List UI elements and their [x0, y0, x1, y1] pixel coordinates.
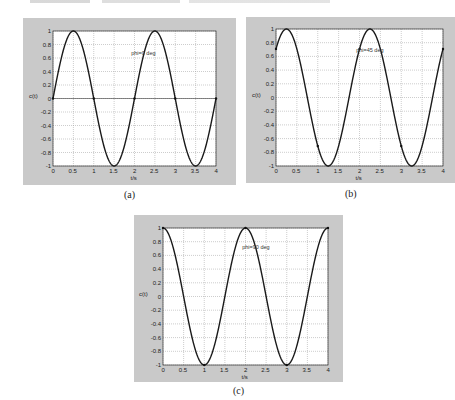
- x-tick-label: 3.5: [417, 168, 425, 174]
- x-tick-label: 3.5: [191, 168, 199, 174]
- x-tick-label: 0.5: [292, 168, 300, 174]
- cropped-top-text: [30, 0, 330, 3]
- x-tick-label: 2.5: [376, 168, 384, 174]
- y-tick-label: -0.8: [151, 348, 161, 354]
- y-tick-label: 0: [48, 96, 51, 102]
- y-tick-label: 0.4: [266, 67, 274, 73]
- phase-annotation: phi=0 deg: [131, 50, 155, 56]
- x-tick-label: 2.5: [261, 367, 269, 373]
- x-tick-label: 0: [161, 367, 164, 373]
- y-axis-label: c(t): [139, 291, 148, 297]
- y-tick-label: 0.6: [266, 53, 274, 59]
- phase-annotation: phi=90 deg: [242, 244, 269, 250]
- y-tick-label: 0.2: [266, 81, 274, 87]
- y-tick-label: -0.8: [41, 150, 51, 156]
- y-tick-label: -0.4: [151, 321, 161, 327]
- x-tick-label: 2: [244, 367, 247, 373]
- y-tick-label: -0.6: [41, 136, 51, 142]
- x-tick-label: 2: [358, 168, 361, 174]
- x-tick-label: 3: [285, 367, 288, 373]
- y-tick-label: 0.8: [266, 40, 274, 46]
- x-tick-label: 3: [400, 168, 403, 174]
- x-tick-label: 1: [203, 367, 206, 373]
- y-tick-label: -0.2: [264, 108, 274, 114]
- y-tick-label: 0.2: [153, 280, 161, 286]
- y-tick-label: 0.8: [153, 239, 161, 245]
- caption-c: (c): [233, 385, 244, 396]
- y-tick-label: -0.6: [151, 335, 161, 341]
- x-tick-label: 3.5: [303, 367, 311, 373]
- x-tick-label: 1.5: [109, 168, 117, 174]
- x-tick-label: 1: [92, 168, 95, 174]
- y-tick-label: 0.2: [43, 82, 51, 88]
- caption-a: (a): [124, 189, 135, 200]
- y-tick-label: 1: [48, 28, 51, 34]
- caption-b: (b): [345, 188, 357, 199]
- x-axis-label: t/s: [131, 175, 137, 181]
- x-axis-label: t/s: [242, 374, 248, 380]
- x-tick-label: 4: [214, 168, 217, 174]
- x-tick-label: 2.5: [150, 168, 158, 174]
- y-tick-label: -1: [156, 362, 161, 368]
- y-tick-label: 1: [158, 225, 161, 231]
- x-tick-label: 1.5: [220, 367, 228, 373]
- x-tick-label: 4: [326, 367, 329, 373]
- x-tick-label: 3: [174, 168, 177, 174]
- x-tick-label: 0: [274, 168, 277, 174]
- x-tick-label: 1: [316, 168, 319, 174]
- x-tick-label: 1.5: [334, 168, 342, 174]
- y-tick-label: -0.8: [264, 149, 274, 155]
- y-tick-label: -1: [46, 163, 51, 169]
- y-tick-label: 0: [158, 294, 161, 300]
- y-axis-label: c(t): [252, 92, 261, 98]
- y-tick-label: -0.4: [41, 123, 51, 129]
- y-tick-label: 1: [271, 26, 274, 32]
- y-tick-label: 0.6: [153, 252, 161, 258]
- y-tick-label: -0.6: [264, 136, 274, 142]
- y-tick-label: -0.4: [264, 122, 274, 128]
- y-tick-label: 0.4: [153, 266, 161, 272]
- y-tick-label: 0: [271, 95, 274, 101]
- x-tick-label: 4: [441, 168, 444, 174]
- y-tick-label: -0.2: [151, 307, 161, 313]
- x-tick-label: 2: [133, 168, 136, 174]
- y-axis-label: c(t): [29, 93, 38, 99]
- x-tick-label: 0.5: [69, 168, 77, 174]
- x-tick-label: 0.5: [179, 367, 187, 373]
- phase-annotation: phi=45 deg: [356, 47, 383, 53]
- y-tick-label: -0.2: [41, 109, 51, 115]
- x-tick-label: 0: [51, 168, 54, 174]
- x-axis-label: t/s: [356, 175, 362, 181]
- y-tick-label: 0.8: [43, 42, 51, 48]
- y-tick-label: -1: [269, 163, 274, 169]
- y-tick-label: 0.6: [43, 55, 51, 61]
- y-tick-label: 0.4: [43, 69, 51, 75]
